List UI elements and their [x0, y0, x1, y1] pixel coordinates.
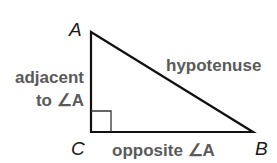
opposite-label: opposite ∠A: [112, 141, 215, 160]
hypotenuse-label: hypotenuse: [166, 56, 261, 75]
vertex-label-a: A: [68, 19, 82, 40]
vertex-label-c: C: [71, 138, 85, 159]
vertex-label-b: B: [255, 138, 268, 159]
adjacent-label-line1: adjacent: [15, 68, 84, 87]
right-angle-marker: [91, 111, 111, 132]
right-triangle-diagram: A C B hypotenuse adjacent to ∠A opposite…: [0, 0, 277, 163]
adjacent-label-line2: to ∠A: [36, 91, 84, 110]
triangle: [91, 32, 253, 132]
